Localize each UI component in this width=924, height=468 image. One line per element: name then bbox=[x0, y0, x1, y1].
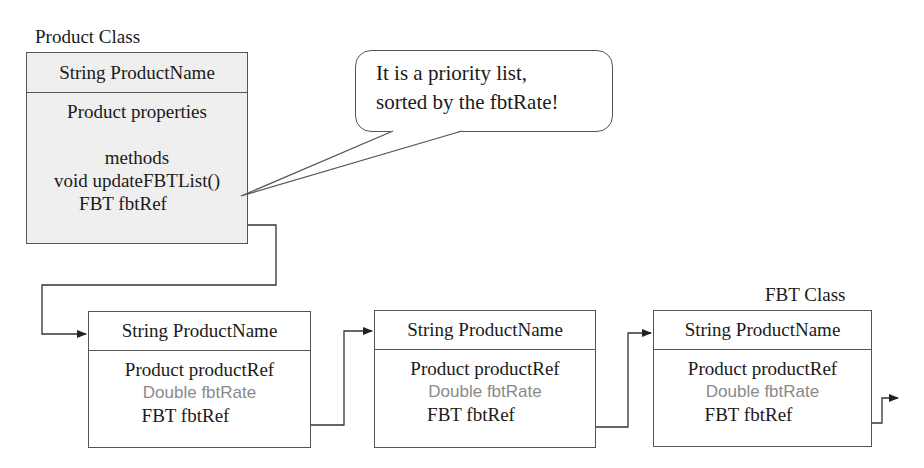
product-ref-field: Product productRef bbox=[654, 357, 871, 380]
callout-bubble: It is a priority list, sorted by the fbt… bbox=[355, 50, 613, 132]
fbt-rate-field: Double fbtRate bbox=[654, 380, 871, 403]
fbt-ref-field: FBT fbtRef bbox=[27, 192, 247, 215]
fbt-rate-field: Double fbtRate bbox=[89, 381, 310, 404]
product-class-box: String ProductName Product properties me… bbox=[26, 52, 248, 244]
fbt-node-1: String ProductName Product productRef Do… bbox=[88, 311, 311, 448]
product-ref-field: Product productRef bbox=[375, 357, 595, 380]
methods-row: methods bbox=[27, 146, 247, 169]
fbt-ref-field: FBT fbtRef bbox=[654, 403, 871, 426]
fbt-node-3-body: Product productRef Double fbtRate FBT fb… bbox=[654, 350, 871, 426]
product-class-body: Product properties methods void updateFB… bbox=[27, 93, 247, 215]
spacer-row bbox=[27, 123, 247, 146]
fbt-node-2-header: String ProductName bbox=[375, 311, 595, 350]
fbt-node-1-header: String ProductName bbox=[89, 312, 310, 351]
callout-line-2: sorted by the fbtRate! bbox=[376, 88, 612, 117]
fbt-ref-field: FBT fbtRef bbox=[375, 403, 595, 426]
fbt-ref-field: FBT fbtRef bbox=[89, 404, 310, 427]
product-class-title: Product Class bbox=[35, 26, 140, 48]
fbt-node-3-header: String ProductName bbox=[654, 311, 871, 350]
callout-line-1: It is a priority list, bbox=[376, 59, 612, 88]
product-properties-row: Product properties bbox=[27, 100, 247, 123]
fbt-rate-field: Double fbtRate bbox=[375, 380, 595, 403]
fbt-node-1-body: Product productRef Double fbtRate FBT fb… bbox=[89, 351, 310, 427]
fbt-class-title: FBT Class bbox=[765, 284, 845, 306]
fbt-node-3: String ProductName Product productRef Do… bbox=[653, 310, 872, 447]
fbt-node-2: String ProductName Product productRef Do… bbox=[374, 310, 596, 448]
product-name-field: String ProductName bbox=[27, 53, 247, 93]
product-ref-field: Product productRef bbox=[89, 358, 310, 381]
fbt-node-2-body: Product productRef Double fbtRate FBT fb… bbox=[375, 350, 595, 426]
update-fbt-list-method: void updateFBTList() bbox=[27, 169, 247, 192]
